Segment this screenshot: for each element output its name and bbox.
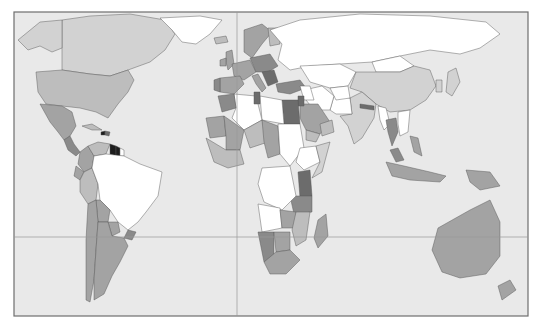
region-jordan bbox=[298, 96, 304, 106]
region-kenya bbox=[298, 170, 312, 198]
region-dominican-republic bbox=[105, 131, 110, 136]
region-angola bbox=[258, 204, 282, 232]
region-vietnam bbox=[398, 110, 410, 136]
region-portugal bbox=[214, 78, 220, 92]
region-korea bbox=[436, 80, 442, 92]
region-libya bbox=[260, 96, 284, 124]
map-svg bbox=[0, 0, 539, 322]
region-tunisia bbox=[254, 92, 260, 104]
region-suriname bbox=[116, 146, 120, 156]
region-egypt bbox=[282, 100, 300, 124]
world-map bbox=[0, 0, 539, 322]
region-guyana bbox=[110, 144, 116, 156]
region-botswana bbox=[274, 232, 290, 252]
